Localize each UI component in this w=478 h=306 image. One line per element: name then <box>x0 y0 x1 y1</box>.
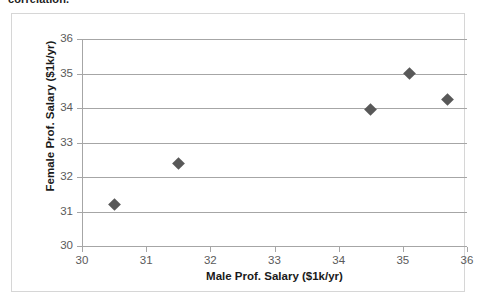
y-axis-tick-label: 33 <box>47 136 73 148</box>
y-axis-tick-label: 34 <box>47 101 73 113</box>
y-axis-tick-label: 32 <box>47 170 73 182</box>
cut-off-caption: correlation. <box>8 0 188 9</box>
gridline-y <box>82 39 467 40</box>
x-axis-tick <box>210 247 211 252</box>
y-axis-tick <box>77 108 82 109</box>
plot-area <box>82 39 467 246</box>
x-axis-tick <box>467 247 468 252</box>
x-axis-tick <box>146 247 147 252</box>
x-axis-tick <box>339 247 340 252</box>
x-axis-tick <box>82 247 83 252</box>
y-axis-tick-label: 36 <box>47 32 73 44</box>
x-axis-tick-label: 30 <box>67 254 97 266</box>
x-axis-title: Male Prof. Salary ($1k/yr) <box>82 270 467 282</box>
x-axis-tick-label: 31 <box>131 254 161 266</box>
y-axis-tick <box>77 74 82 75</box>
y-axis-tick <box>77 39 82 40</box>
x-axis-tick <box>275 247 276 252</box>
y-axis-tick <box>77 212 82 213</box>
x-axis-tick <box>403 247 404 252</box>
x-axis-tick-label: 36 <box>452 254 478 266</box>
x-axis-tick-label: 34 <box>324 254 354 266</box>
data-point-marker <box>108 198 121 211</box>
data-point-marker <box>403 67 416 80</box>
x-axis-tick-label: 35 <box>388 254 418 266</box>
gridline-y <box>82 177 467 178</box>
x-axis-tick-label: 32 <box>195 254 225 266</box>
y-axis-tick-label: 35 <box>47 67 73 79</box>
y-axis-tick-label: 30 <box>47 239 73 251</box>
chart-frame: Male Prof. Salary ($1k/yr) Female Prof. … <box>11 13 465 292</box>
gridline-y <box>82 108 467 109</box>
data-point-marker <box>441 93 454 106</box>
caption-text: correlation. <box>8 0 69 5</box>
y-axis-tick <box>77 177 82 178</box>
y-axis-tick-label: 31 <box>47 205 73 217</box>
gridline-y <box>82 212 467 213</box>
x-axis-tick-label: 33 <box>260 254 290 266</box>
y-axis-title: Female Prof. Salary ($1k/yr) <box>44 16 56 216</box>
gridline-y <box>82 143 467 144</box>
y-axis-tick <box>77 143 82 144</box>
data-point-marker <box>172 157 185 170</box>
data-point-marker <box>364 103 377 116</box>
